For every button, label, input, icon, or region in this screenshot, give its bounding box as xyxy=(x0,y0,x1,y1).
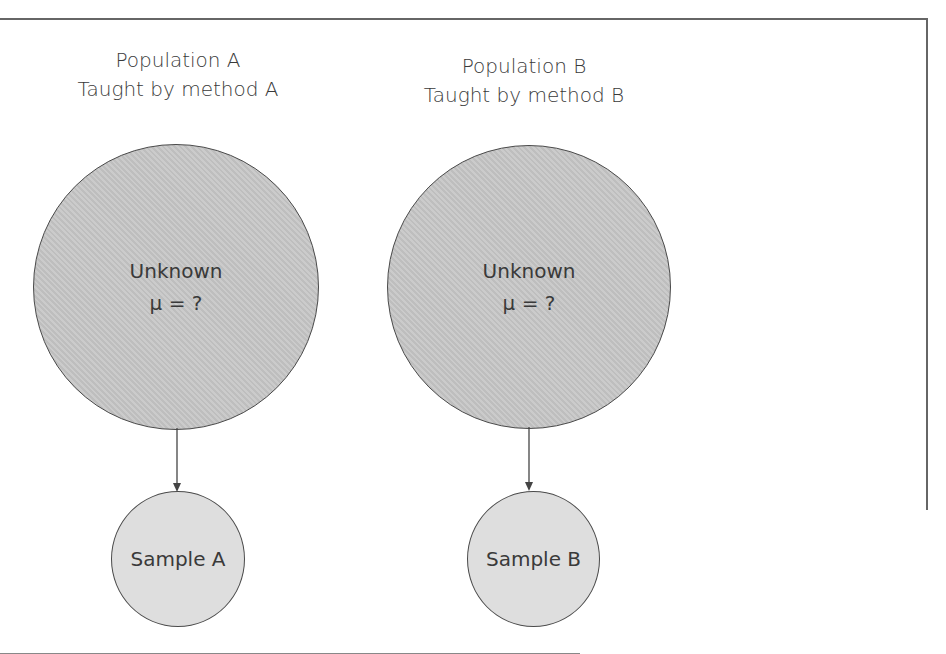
population-b-label: Population B Taught by method B xyxy=(404,52,644,110)
population-a-subtitle: Taught by method A xyxy=(58,75,298,104)
frame-right-border xyxy=(926,19,928,510)
population-b-title: Population B xyxy=(404,52,644,81)
population-b-subtitle: Taught by method B xyxy=(404,81,644,110)
frame-top-border xyxy=(0,18,928,20)
population-b-circle: Unknown μ = ? xyxy=(387,145,671,429)
population-b-mean-text: μ = ? xyxy=(503,287,556,319)
arrow-b-icon xyxy=(522,427,536,493)
population-a-mean-text: μ = ? xyxy=(150,287,203,319)
population-a-unknown-text: Unknown xyxy=(130,255,223,287)
sample-a-label: Sample A xyxy=(130,543,225,575)
population-a-circle: Unknown μ = ? xyxy=(33,144,319,430)
sample-a-circle: Sample A xyxy=(111,491,245,627)
population-a-label: Population A Taught by method A xyxy=(58,46,298,104)
population-b-unknown-text: Unknown xyxy=(483,255,576,287)
sample-b-label: Sample B xyxy=(486,543,581,575)
population-a-title: Population A xyxy=(58,46,298,75)
arrow-a-icon xyxy=(170,428,184,494)
sample-b-circle: Sample B xyxy=(467,491,600,627)
